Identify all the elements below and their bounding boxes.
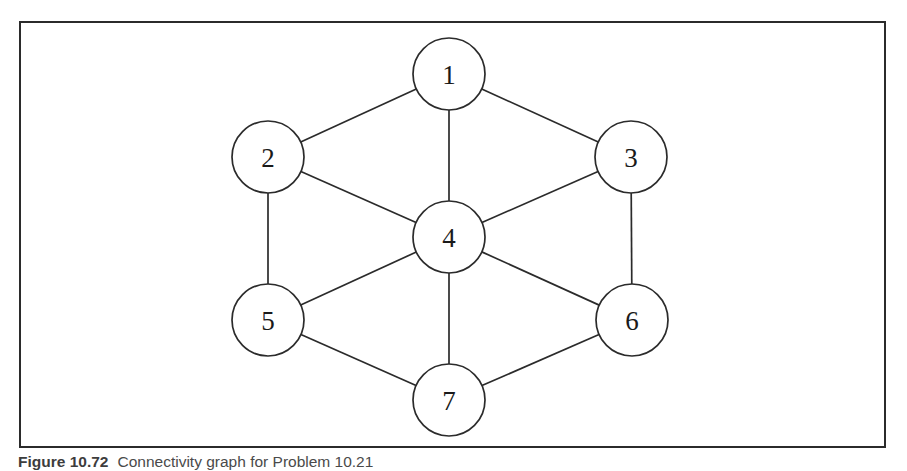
figure-frame-border	[19, 21, 886, 448]
figure-caption: Figure 10.72Connectivity graph for Probl…	[18, 453, 878, 471]
figure-caption-label: Figure 10.72	[18, 453, 108, 470]
figure-caption-text: Connectivity graph for Problem 10.21	[117, 453, 373, 470]
